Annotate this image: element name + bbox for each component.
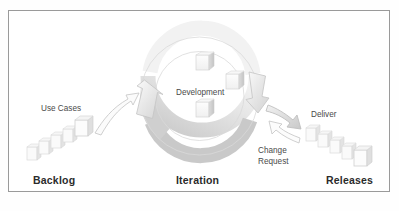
stage-label-releases: Releases — [326, 174, 373, 186]
stage-label-iteration: Iteration — [176, 174, 219, 186]
use-cases-label: Use Cases — [41, 104, 81, 113]
use-cases-arrow — [95, 93, 139, 135]
releases-card-stack — [306, 125, 372, 166]
backlog-card — [75, 116, 93, 136]
development-box-icon-2 — [226, 71, 244, 89]
backlog-card-stack — [27, 116, 93, 160]
release-card — [354, 146, 372, 166]
development-box-icon-1 — [196, 52, 214, 70]
deliver-label: Deliver — [311, 110, 336, 119]
stage-label-backlog: Backlog — [33, 174, 75, 186]
change-request-label-line1: Change — [258, 146, 287, 155]
change-request-label-line2: Request — [258, 157, 289, 166]
diagram-canvas: Use Cases Development Deliver Change Req… — [0, 0, 399, 211]
development-box-icon-3 — [196, 99, 214, 117]
development-label: Development — [176, 88, 224, 97]
